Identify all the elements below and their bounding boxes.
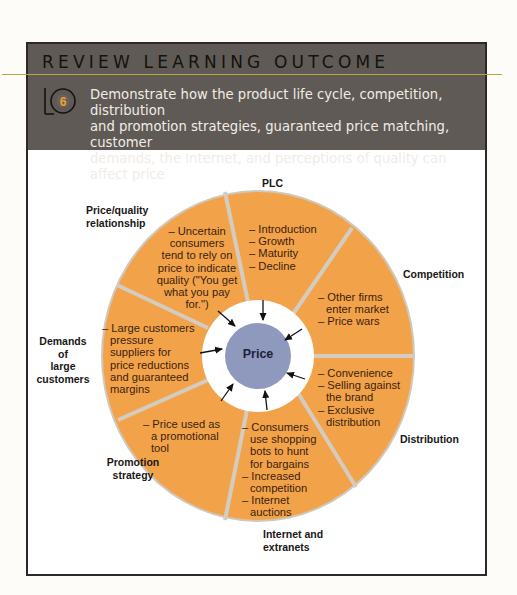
category-label-promotion: Promotion strategy <box>98 456 168 481</box>
category-label-plc: PLC <box>262 177 283 190</box>
category-label-price-quality: Price/quality relationship <box>86 204 148 229</box>
segment-text-competition: – Other firms enter market – Price wars <box>318 291 389 328</box>
category-label-competition: Competition <box>403 268 464 281</box>
price-center-label: Price <box>231 347 285 361</box>
segment-text-plc: – Introduction – Growth – Maturity – Dec… <box>249 223 317 272</box>
category-label-distribution: Distribution <box>400 433 459 446</box>
segment-text-demands: – Large customers pressure suppliers for… <box>102 322 195 395</box>
segment-text-promotion: – Price used as a promotional tool <box>143 418 220 455</box>
segment-text-price-quality: – Uncertain consumers tend to rely on pr… <box>150 225 244 310</box>
category-label-internet: Internet and extranets <box>263 528 323 553</box>
segment-text-distribution: – Convenience – Selling against the bran… <box>318 367 400 428</box>
segment-text-internet: – Consumers use shopping bots to hunt fo… <box>242 421 317 519</box>
category-label-demands: Demands of large customers <box>32 335 94 385</box>
